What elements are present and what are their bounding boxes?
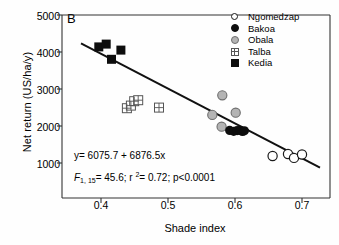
legend-label-ngomedzap: Ngomedzap bbox=[248, 11, 299, 23]
chart-figure: Net return (US/ha/y) 5000 4000 3000 2000… bbox=[0, 0, 339, 245]
legend-label-talba: Talba bbox=[248, 46, 271, 58]
grid-square-icon bbox=[228, 46, 241, 57]
x-axis-ticks bbox=[101, 198, 302, 203]
gray-circle-icon bbox=[228, 34, 241, 45]
open-circle-icon bbox=[228, 11, 241, 22]
legend-label-bakoa: Bakoa bbox=[248, 23, 275, 35]
y-axis-ticks bbox=[57, 15, 62, 163]
filled-square-icon bbox=[228, 58, 241, 69]
series-obala-points bbox=[208, 91, 241, 132]
legend-item-ngomedzap: Ngomedzap bbox=[228, 11, 299, 23]
legend-item-talba: Talba bbox=[228, 46, 299, 58]
legend-label-kedia: Kedia bbox=[248, 57, 272, 69]
filled-circle-icon bbox=[228, 23, 241, 34]
series-ngomedzap-points bbox=[268, 149, 307, 162]
legend-item-bakoa: Bakoa bbox=[228, 23, 299, 35]
series-bakoa-points bbox=[225, 126, 249, 136]
legend-label-obala: Obala bbox=[248, 34, 273, 46]
legend-item-obala: Obala bbox=[228, 34, 299, 46]
legend-item-kedia: Kedia bbox=[228, 57, 299, 69]
legend: Ngomedzap Bakoa Obala Talba Kedia bbox=[228, 11, 299, 69]
series-talba-points bbox=[122, 96, 163, 113]
